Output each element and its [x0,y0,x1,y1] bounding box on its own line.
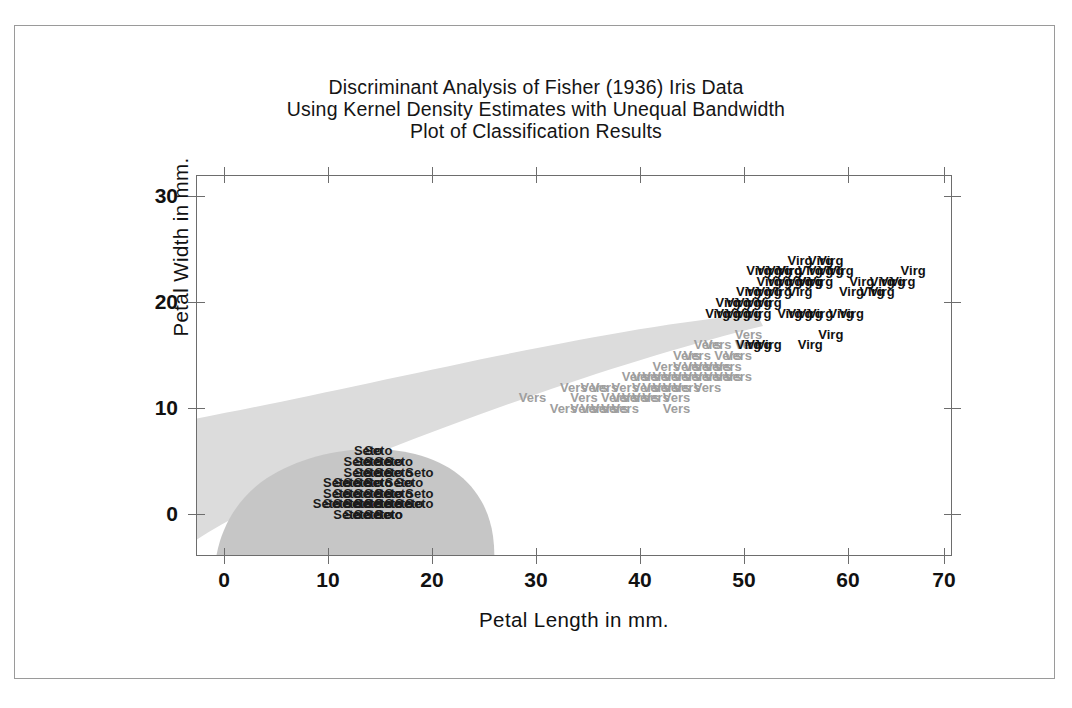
xtick-mark-60 [848,548,849,564]
xtick-label-20: 20 [402,568,462,592]
ytick-mark-right-10 [944,408,961,409]
xtick-mark-10 [328,548,329,564]
ytick-mark-10 [188,408,205,409]
xtick-mark-top-70 [944,167,945,183]
x-axis-title: Petal Length in mm. [196,608,952,632]
xtick-mark-top-50 [744,167,745,183]
xtick-label-60: 60 [818,568,878,592]
xtick-label-70: 70 [914,568,974,592]
xtick-mark-top-40 [640,167,641,183]
y-axis-title: Petal Width in mm. [169,127,193,367]
ytick-label-10: 10 [118,396,178,420]
ytick-mark-right-30 [944,196,961,197]
chart-title: Discriminant Analysis of Fisher (1936) I… [0,76,1072,142]
ytick-label-0: 0 [118,502,178,526]
xtick-mark-top-30 [536,167,537,183]
chart-title-line-3: Plot of Classification Results [0,120,1072,142]
ytick-mark-0 [188,514,205,515]
xtick-mark-top-0 [224,167,225,183]
xtick-label-40: 40 [610,568,670,592]
ytick-mark-right-0 [944,514,961,515]
xtick-mark-top-10 [328,167,329,183]
xtick-mark-0 [224,548,225,564]
xtick-label-10: 10 [298,568,358,592]
chart-title-line-2: Using Kernel Density Estimates with Uneq… [0,98,1072,120]
xtick-label-30: 30 [506,568,566,592]
xtick-mark-50 [744,548,745,564]
xtick-mark-30 [536,548,537,564]
xtick-label-50: 50 [714,568,774,592]
chart-title-line-1: Discriminant Analysis of Fisher (1936) I… [0,76,1072,98]
chart-page: Discriminant Analysis of Fisher (1936) I… [0,0,1072,708]
xtick-mark-top-20 [432,167,433,183]
xtick-mark-20 [432,548,433,564]
xtick-label-0: 0 [194,568,254,592]
plot-area [196,175,952,556]
xtick-mark-top-60 [848,167,849,183]
ytick-mark-right-20 [944,302,961,303]
xtick-mark-40 [640,548,641,564]
density-regions [197,176,951,555]
xtick-mark-70 [944,548,945,564]
plot-clip-region [197,176,951,555]
